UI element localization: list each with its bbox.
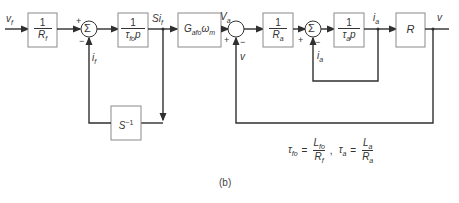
sigma-symbol-1: Σ: [84, 23, 91, 34]
label-vf: vf: [6, 14, 13, 28]
label-ia-feedback: ia: [317, 51, 323, 65]
figure-caption: (b): [219, 177, 231, 188]
minus-sign-3: −: [315, 38, 320, 47]
plus-sign-1: +: [76, 17, 81, 26]
if-feedback-line: [89, 38, 111, 123]
eq1-fraction: Lfo Rf: [313, 137, 324, 164]
label-if: if: [92, 53, 96, 67]
block-r-content: R: [396, 24, 425, 34]
block-ta-content: 1 τap: [334, 17, 364, 45]
block-gain-content: Gafoωm: [178, 24, 221, 38]
block-ra-content: 1 Ra: [263, 17, 293, 45]
block-sinv-content: S−1: [111, 118, 141, 131]
eq1-lhs: τfo: [288, 144, 298, 157]
eq2-lhs: τa: [339, 144, 347, 157]
label-sif: Sif: [152, 14, 163, 28]
minus-sign-1: −: [79, 37, 84, 46]
eq2-fraction: La Ra: [362, 137, 373, 164]
block-diagram-canvas: [0, 0, 459, 203]
block-rf-content: 1 Rf: [28, 17, 57, 45]
time-constant-equations: τfo = Lfo Rf , τa = La Ra: [288, 137, 375, 164]
block-tfo-content: 1 τfop: [118, 17, 148, 45]
plus-sign-2: +: [224, 36, 229, 45]
minus-sign-2: −: [240, 38, 245, 47]
label-va: Va: [220, 12, 231, 26]
label-v-output: v: [437, 13, 442, 23]
label-v-feedback: v: [240, 52, 245, 62]
plus-sign-3: +: [298, 36, 303, 45]
label-ia: ia: [373, 13, 379, 27]
sigma-symbol-3: Σ: [308, 23, 315, 34]
